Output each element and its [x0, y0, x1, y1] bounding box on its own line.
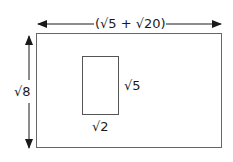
inner-height-label: √5 — [124, 79, 141, 92]
outer-height-label: √8 — [14, 85, 31, 98]
inner-width-label: √2 — [92, 120, 109, 133]
inner-rectangle — [83, 57, 119, 115]
outer-width-label: (√5 + √20) — [95, 17, 166, 30]
